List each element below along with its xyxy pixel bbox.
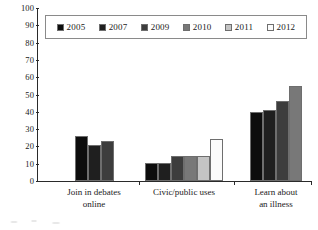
legend-label: 2010 [193,22,212,32]
legend-swatch-icon [225,24,232,31]
y-axis-tick: 90 [0,20,43,30]
y-axis-tick-label: 70 [25,55,34,65]
legend-label: 2012 [277,22,296,32]
legend-swatch-icon [267,24,274,31]
bar [101,141,114,181]
bar [158,163,171,181]
legend-item: 2005 [57,22,86,32]
legend-item: 2012 [267,22,296,32]
y-axis-tick-label: 80 [25,38,34,48]
y-axis-tick-label: 10 [25,159,34,169]
legend-swatch-icon [183,24,190,31]
legend-item: 2011 [225,22,253,32]
scan-noise-artifact [6,219,68,225]
y-axis-tick: 100 [0,3,43,13]
x-axis-group-tick [139,181,140,185]
y-axis-tick: 60 [0,72,43,82]
legend-swatch-icon [57,24,64,31]
bar [197,156,210,181]
bar [289,86,302,181]
bar [75,136,88,181]
y-axis-tick: 80 [0,38,43,48]
y-axis-tick-label: 20 [25,141,34,151]
x-axis-category-label: Learn about an illness [226,187,318,210]
x-axis-end-tick [311,181,312,185]
legend-item: 2007 [99,22,128,32]
bar [276,101,289,181]
y-axis-tick-label: 0 [30,176,34,186]
legend-label: 2005 [67,22,86,32]
bar [145,163,158,181]
bar [171,156,184,181]
y-axis-tick-label: 100 [21,3,34,13]
legend-label: 2007 [109,22,128,32]
y-axis-tick-label: 50 [25,90,34,100]
legend-item: 2010 [183,22,212,32]
y-axis-tick: 50 [0,90,43,100]
y-axis-tick: 40 [0,107,43,117]
bar [210,139,223,181]
x-axis-category-label: Join in debates online [44,187,144,210]
y-axis-tick-label: 90 [25,20,34,30]
y-axis-tick: 10 [0,159,43,169]
x-axis-group-tick [234,181,235,185]
y-axis-tick: 70 [0,55,43,65]
legend-item: 2009 [141,22,170,32]
y-axis-tick: 30 [0,124,43,134]
y-axis-tick: 20 [0,141,43,151]
x-axis-line [37,181,312,182]
bar [184,156,197,181]
legend-label: 2009 [151,22,170,32]
legend-swatch-icon [99,24,106,31]
bar [250,112,263,181]
y-axis-tick-label: 40 [25,107,34,117]
y-axis-tick-label: 30 [25,124,34,134]
bar [263,110,276,181]
x-axis-category-label: Civic/public uses [134,187,234,199]
bar-chart: 1009080706050403020100 Join in debates o… [0,0,318,230]
y-axis-tick-label: 60 [25,72,34,82]
chart-legend: 200520072009201020112012 [45,15,307,39]
legend-label: 2011 [235,22,253,32]
bar [88,145,101,181]
legend-swatch-icon [141,24,148,31]
